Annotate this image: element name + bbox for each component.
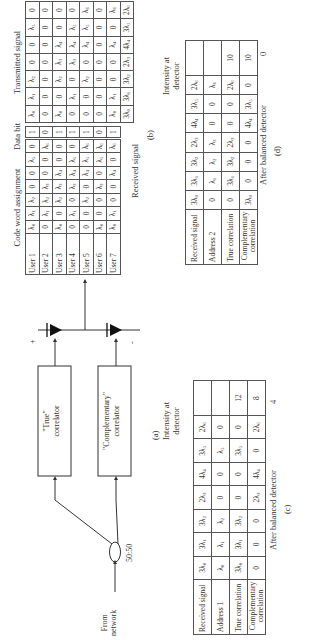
photodiode-plus-icon xyxy=(50,324,62,336)
result-cell: 3λ5 xyxy=(194,439,212,462)
row-header: Address 1 xyxy=(212,580,230,635)
code-word-title: Code word assignment xyxy=(12,140,22,275)
transmitted-cell: 0 xyxy=(53,19,67,36)
result-cell: 3λ2 xyxy=(194,509,212,532)
transmitted-cell: 0 xyxy=(93,105,107,122)
user-label: User 1 xyxy=(26,234,40,275)
transmitted-cell: 0 xyxy=(80,88,94,105)
code-word-cell: λ3 xyxy=(53,180,67,193)
code-word-cell: λ2 xyxy=(26,193,40,206)
transmitted-cell: λ3 xyxy=(53,53,67,70)
code-word-cell: λ0 xyxy=(107,220,121,233)
result-cell: λ0 xyxy=(212,556,230,579)
data-bit-row: 1 xyxy=(26,127,40,138)
result-cell: 3λ1 xyxy=(194,533,212,556)
result-cell: 0 xyxy=(248,509,266,532)
code-word-cell: λ2 xyxy=(53,193,67,206)
result-cell: 3λ2 xyxy=(186,152,204,171)
code-word-cell: λ2 xyxy=(39,193,53,206)
result-cell: 3λ5 xyxy=(240,95,258,114)
transmitted-row: 00λ20λ4λ5λ6 xyxy=(80,2,94,123)
transmitted-cell: 0 xyxy=(93,71,107,88)
data-bit-row: 1 xyxy=(66,127,80,138)
transmitted-cell: λ0 xyxy=(26,105,40,122)
intensity-line2: detector xyxy=(172,402,182,440)
panel-c-table: Received signal3λ03λ13λ22λ34λ43λ52λ6Addr… xyxy=(193,380,266,635)
code-word-cell: 0 xyxy=(39,166,53,179)
result-cell: 2λ6 xyxy=(186,76,204,95)
transmitted-cell: λ6 xyxy=(80,2,94,19)
code-word-cell: 0 xyxy=(80,207,94,220)
result-row: Complementary correlation0002λ34λ402λ68 xyxy=(248,381,266,635)
received-cell: 2λ6 xyxy=(120,2,134,19)
code-word-cell: 0 xyxy=(66,220,80,233)
transmitted-cell: 0 xyxy=(66,105,80,122)
result-cell: 0 xyxy=(212,462,230,485)
result-cell: 0 xyxy=(204,114,222,133)
data-bit-row: 0 xyxy=(93,127,107,138)
code-word-cell: λ2 xyxy=(80,193,94,206)
row-header: Complementary correlation xyxy=(240,210,258,265)
code-word-cell: 0 xyxy=(107,193,121,206)
transmitted-cell: λ0 xyxy=(107,105,121,122)
result-cell: 3λ5 xyxy=(186,95,204,114)
balanced-detector-diagram xyxy=(0,260,190,640)
result-cell: 0 xyxy=(204,95,222,114)
coupler-icon xyxy=(110,542,121,562)
received-cell: 4λ4 xyxy=(120,36,134,53)
intensity-cell: 12 xyxy=(230,381,248,416)
code-word-cell: λ4 xyxy=(107,166,121,179)
result-row: Received signal3λ03λ13λ22λ34λ43λ52λ6 xyxy=(186,41,204,265)
code-word-cell: 0 xyxy=(53,153,67,166)
transmitted-cell: 0 xyxy=(80,105,94,122)
output-arrow-icon xyxy=(83,279,87,283)
complementary-correlator-label: "Complementary" correlator xyxy=(102,366,121,476)
data-bit-row: 1 xyxy=(80,127,94,138)
result-row: True correlation03λ13λ22λ3002λ610 xyxy=(222,41,240,265)
transmitted-cell: λ3 xyxy=(66,53,80,70)
transmitted-cell: λ5 xyxy=(66,19,80,36)
transmitted-cell: λ2 xyxy=(53,71,67,88)
result-cell: 4λ4 xyxy=(194,462,212,485)
transmitted-cell: λ6 xyxy=(107,2,121,19)
code-word-cell: λ5 xyxy=(93,153,107,166)
result-cell: 2λ6 xyxy=(194,416,212,439)
intensity-cell xyxy=(186,41,204,76)
result-cell: 3λ5 xyxy=(230,439,248,462)
result-row: True correlation3λ03λ13λ2003λ5012 xyxy=(230,381,248,635)
code-word-row: User 500λ20λ4λ5λ6 xyxy=(80,140,94,275)
user-label: User 6 xyxy=(93,234,107,275)
transmitted-title: Transmitted signal xyxy=(12,0,22,125)
transmitted-cell: 0 xyxy=(26,53,40,70)
result-cell: 0 xyxy=(248,533,266,556)
result-cell: λ1 xyxy=(212,533,230,556)
result-cell: 0 xyxy=(230,462,248,485)
code-word-cell: λ6 xyxy=(39,140,53,153)
code-word-cell: λ0 xyxy=(53,220,67,233)
code-word-cell: λ5 xyxy=(66,153,80,166)
upper-branch-line xyxy=(55,478,112,544)
transmitted-cell: 0 xyxy=(39,19,53,36)
row-header: Complementary correlation xyxy=(248,580,266,635)
user-label: User 4 xyxy=(66,234,80,275)
result-cell: λ3 xyxy=(204,133,222,152)
intensity-line2: detector xyxy=(172,57,182,95)
code-word-cell: 0 xyxy=(66,193,80,206)
code-word-cell: λ1 xyxy=(107,207,121,220)
true-output-arrow-icon xyxy=(53,338,57,342)
transmitted-cell: 0 xyxy=(53,88,67,105)
panel-c-caption: (c) xyxy=(282,505,292,514)
panel-d-caption: (d) xyxy=(272,146,282,156)
code-word-table: User 1λ0λ1λ200λ50User 20λ1λ2λ300λ6User 3… xyxy=(25,139,121,275)
comp-correlator-line2: correlator xyxy=(112,366,122,476)
transmitted-cell: λ4 xyxy=(107,36,121,53)
from-label: From xyxy=(100,610,109,636)
panel-d-table: Received signal3λ03λ13λ22λ34λ43λ52λ6Addr… xyxy=(185,40,258,265)
code-word-cell: 0 xyxy=(93,166,107,179)
result-cell: 0 xyxy=(248,556,266,579)
from-network-label: From network xyxy=(100,610,118,636)
transmitted-cell: 0 xyxy=(93,36,107,53)
data-bit-cell: 1 xyxy=(26,127,40,138)
upper-branch-arrow-icon xyxy=(53,476,57,480)
minus-sign: - xyxy=(128,341,137,344)
